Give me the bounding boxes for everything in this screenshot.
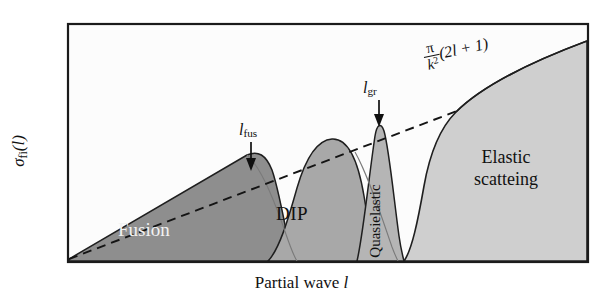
region-label-dip: DIP	[276, 203, 308, 225]
y-axis-sigma: σ	[9, 158, 28, 166]
elastic-line-2: scatteing	[474, 169, 538, 189]
region-label-fusion: Fusion	[118, 219, 170, 241]
region-label-quasielastic: Quasielastic	[362, 163, 388, 279]
elastic-line-1: Elastic	[482, 147, 531, 167]
x-axis-variable: l	[344, 273, 349, 292]
y-axis-label: σfi(l)	[6, 96, 32, 206]
figure-container: σfi(l) Partial wave l Fusion DIP Quasiel…	[0, 0, 603, 307]
l-fus-subscript: fus	[243, 127, 257, 139]
region-label-elastic-scattering: Elasticscatteing	[447, 147, 565, 191]
y-axis-argument: (l)	[9, 135, 28, 151]
annotation-l-gr: lgr	[363, 79, 377, 97]
x-axis-text: Partial wave	[255, 273, 340, 292]
annotation-l-fus: lfus	[239, 121, 257, 139]
formula-exponent: 2	[432, 54, 439, 66]
y-axis-subscript: fi	[16, 151, 30, 158]
l-gr-subscript: gr	[367, 85, 376, 97]
x-axis-label: Partial wave l	[0, 273, 603, 293]
formula-tail: (2l + 1)	[437, 35, 489, 62]
